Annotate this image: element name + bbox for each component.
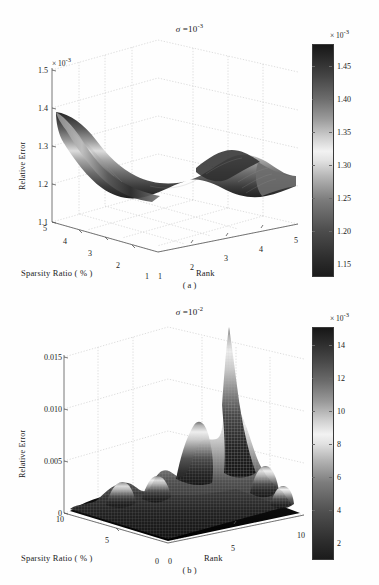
- panel-b-ytick-2: 10: [56, 515, 64, 524]
- panel-a-cbar-tick-3: 1.30: [337, 161, 351, 170]
- chart-panel-b: σ =10-2 Relative Error 0.015 0.010 0.005…: [0, 293, 379, 585]
- panel-a-colorbar[interactable]: [312, 44, 334, 277]
- panel-a-ytick-2: 3: [88, 249, 92, 258]
- panel-b-cbar-tick-0: 14: [337, 341, 345, 350]
- panel-b-cbar-tick-3: 8: [337, 440, 341, 449]
- panel-b-cbar-tick-1: 12: [337, 374, 345, 383]
- panel-a-cbar-tick-5: 1.20: [337, 227, 351, 236]
- panel-a-ylabel: Sparsity Ratio ( % ): [21, 268, 93, 278]
- panel-b-cbar-tick-6: 2: [337, 539, 341, 548]
- figure-page: σ =10-3 × 10-3 Relative Error 1.5 1.4 1.…: [0, 0, 379, 585]
- panel-a-xtick-2: 3: [224, 254, 228, 263]
- panel-a-xlabel: Rank: [196, 268, 215, 278]
- panel-a-cbar-tick-0: 1.45: [337, 62, 351, 71]
- panel-a-cbar-tick-6: 1.15: [337, 260, 351, 269]
- panel-a-colorbar-exponent: × 10-3: [330, 28, 349, 40]
- panel-b-xlabel: Rank: [204, 553, 223, 563]
- panel-a-xtick-3: 4: [259, 245, 263, 254]
- panel-a-ytick-3: 4: [63, 237, 67, 246]
- panel-b-xtick-1: 5: [231, 544, 235, 553]
- panel-a-cbar-tick-2: 1.35: [337, 128, 351, 137]
- panel-b-subcaption: ( b ): [0, 565, 379, 575]
- panel-a-surface: [56, 112, 296, 202]
- panel-a-cbar-tick-1: 1.40: [337, 95, 351, 104]
- panel-b-cbar-tick-2: 10: [337, 407, 345, 416]
- panel-b-xtick-2: 10: [297, 531, 305, 540]
- panel-b-colorbar-exponent: × 10-3: [330, 311, 349, 323]
- panel-b-ylabel: Sparsity Ratio ( % ): [21, 553, 93, 563]
- panel-a-xtick-4: 5: [294, 236, 298, 245]
- panel-b-ytick-1: 5: [105, 536, 109, 545]
- chart-panel-a: σ =10-3 × 10-3 Relative Error 1.5 1.4 1.…: [0, 0, 379, 293]
- panel-b-cbar-tick-4: 6: [337, 473, 341, 482]
- panel-b-cbar-tick-5: 4: [337, 506, 341, 515]
- panel-a-ytick-4: 5: [43, 224, 47, 233]
- panel-a-cbar-tick-4: 1.25: [337, 194, 351, 203]
- panel-a-ytick-1: 2: [116, 261, 120, 270]
- panel-a-subcaption: ( a ): [0, 280, 379, 290]
- panel-a-xtick-1: 2: [190, 263, 194, 272]
- panel-b-surface: [70, 327, 294, 539]
